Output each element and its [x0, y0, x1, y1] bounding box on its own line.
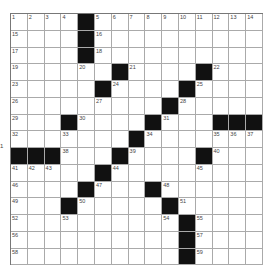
grid-cell[interactable]	[129, 232, 146, 249]
grid-cell[interactable]	[162, 31, 179, 48]
grid-cell[interactable]	[196, 198, 213, 215]
grid-cell[interactable]	[145, 249, 162, 266]
grid-cell[interactable]	[95, 249, 112, 266]
grid-cell[interactable]: 53	[61, 215, 78, 232]
grid-cell[interactable]	[45, 182, 62, 199]
grid-cell[interactable]: 19	[11, 64, 28, 81]
grid-cell[interactable]	[196, 48, 213, 65]
grid-cell[interactable]	[61, 48, 78, 65]
grid-cell[interactable]	[78, 249, 95, 266]
grid-cell[interactable]	[162, 48, 179, 65]
grid-cell[interactable]	[28, 215, 45, 232]
grid-cell[interactable]	[246, 249, 263, 266]
grid-cell[interactable]	[246, 31, 263, 48]
grid-cell[interactable]	[229, 81, 246, 98]
grid-cell[interactable]: 31	[162, 115, 179, 132]
grid-cell[interactable]: 50	[78, 198, 95, 215]
grid-cell[interactable]	[229, 198, 246, 215]
grid-cell[interactable]: 1	[11, 14, 28, 31]
grid-cell[interactable]	[61, 31, 78, 48]
grid-cell[interactable]	[45, 98, 62, 115]
grid-cell[interactable]	[112, 182, 129, 199]
grid-cell[interactable]	[78, 148, 95, 165]
grid-cell[interactable]	[179, 48, 196, 65]
grid-cell[interactable]	[45, 249, 62, 266]
grid-cell[interactable]	[213, 48, 230, 65]
grid-cell[interactable]	[246, 215, 263, 232]
grid-cell[interactable]: 33	[61, 131, 78, 148]
grid-cell[interactable]: 43	[45, 165, 62, 182]
grid-cell[interactable]: 39	[129, 148, 146, 165]
grid-cell[interactable]: 7	[129, 14, 146, 31]
grid-cell[interactable]: 51	[179, 198, 196, 215]
grid-cell[interactable]	[78, 215, 95, 232]
grid-cell[interactable]: 3	[45, 14, 62, 31]
grid-cell[interactable]	[28, 182, 45, 199]
grid-cell[interactable]: 41	[11, 165, 28, 182]
grid-cell[interactable]: 25	[196, 81, 213, 98]
grid-cell[interactable]	[162, 131, 179, 148]
grid-cell[interactable]: 54	[162, 215, 179, 232]
grid-cell[interactable]: 13	[229, 14, 246, 31]
grid-cell[interactable]: 29	[11, 115, 28, 132]
grid-cell[interactable]	[129, 198, 146, 215]
grid-cell[interactable]	[61, 98, 78, 115]
grid-cell[interactable]	[28, 249, 45, 266]
grid-cell[interactable]: 4	[61, 14, 78, 31]
grid-cell[interactable]	[95, 131, 112, 148]
grid-cell[interactable]	[28, 98, 45, 115]
grid-cell[interactable]: 21	[129, 64, 146, 81]
grid-cell[interactable]	[45, 232, 62, 249]
grid-cell[interactable]	[179, 131, 196, 148]
grid-cell[interactable]	[129, 249, 146, 266]
grid-cell[interactable]	[145, 31, 162, 48]
grid-cell[interactable]	[213, 182, 230, 199]
grid-cell[interactable]	[28, 31, 45, 48]
grid-cell[interactable]	[213, 165, 230, 182]
grid-cell[interactable]	[145, 81, 162, 98]
grid-cell[interactable]	[95, 64, 112, 81]
grid-cell[interactable]: 30	[78, 115, 95, 132]
grid-cell[interactable]	[145, 198, 162, 215]
grid-cell[interactable]	[112, 198, 129, 215]
grid-cell[interactable]: 23	[11, 81, 28, 98]
grid-cell[interactable]	[162, 64, 179, 81]
grid-cell[interactable]: 18	[95, 48, 112, 65]
grid-cell[interactable]: 15	[11, 31, 28, 48]
grid-cell[interactable]: 44	[112, 165, 129, 182]
grid-cell[interactable]	[179, 165, 196, 182]
grid-cell[interactable]	[129, 98, 146, 115]
grid-cell[interactable]	[129, 81, 146, 98]
grid-cell[interactable]	[213, 232, 230, 249]
grid-cell[interactable]	[196, 131, 213, 148]
grid-cell[interactable]: 22	[213, 64, 230, 81]
grid-cell[interactable]: 16	[95, 31, 112, 48]
grid-cell[interactable]: 24	[112, 81, 129, 98]
grid-cell[interactable]	[129, 48, 146, 65]
grid-cell[interactable]	[28, 198, 45, 215]
grid-cell[interactable]	[112, 249, 129, 266]
grid-cell[interactable]	[78, 98, 95, 115]
grid-cell[interactable]	[179, 64, 196, 81]
grid-cell[interactable]: 27	[95, 98, 112, 115]
grid-cell[interactable]: 11	[196, 14, 213, 31]
grid-cell[interactable]	[61, 165, 78, 182]
grid-cell[interactable]	[95, 215, 112, 232]
grid-cell[interactable]	[45, 131, 62, 148]
grid-cell[interactable]: 32	[11, 131, 28, 148]
grid-cell[interactable]: 55	[196, 215, 213, 232]
grid-cell[interactable]	[213, 198, 230, 215]
grid-cell[interactable]: 14	[246, 14, 263, 31]
grid-cell[interactable]: 52	[11, 215, 28, 232]
grid-cell[interactable]	[246, 182, 263, 199]
grid-cell[interactable]	[229, 148, 246, 165]
grid-cell[interactable]: 8	[145, 14, 162, 31]
grid-cell[interactable]: 35	[213, 131, 230, 148]
grid-cell[interactable]: 5	[95, 14, 112, 31]
grid-cell[interactable]	[229, 249, 246, 266]
grid-cell[interactable]	[145, 48, 162, 65]
grid-cell[interactable]: 10	[179, 14, 196, 31]
grid-cell[interactable]	[229, 48, 246, 65]
grid-cell[interactable]	[246, 165, 263, 182]
grid-cell[interactable]	[45, 198, 62, 215]
